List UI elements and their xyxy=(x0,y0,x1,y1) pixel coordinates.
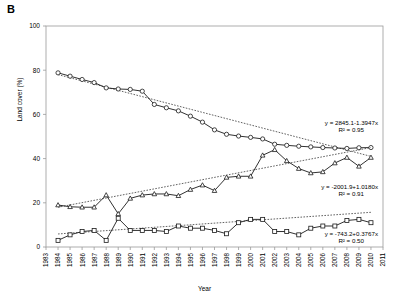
x-tick-label: 2008 xyxy=(343,253,350,268)
data-point-square xyxy=(345,218,349,222)
equation-lower-series: y = -743.2+0.3767xR² = 0.50 xyxy=(325,230,379,244)
x-tick-label: 1991 xyxy=(139,253,146,268)
data-point-square xyxy=(80,230,84,234)
x-tick-label: 1987 xyxy=(91,253,98,268)
y-tick-group: 020406080100 xyxy=(29,22,46,250)
x-tick-label: 1990 xyxy=(127,253,134,268)
data-point-circle xyxy=(224,132,228,136)
x-tick-label: 1999 xyxy=(235,253,242,268)
x-tick-label: 1984 xyxy=(54,253,61,268)
r-squared-text: R² = 0.91 xyxy=(338,190,364,197)
data-point-square xyxy=(188,226,192,230)
data-point-circle xyxy=(273,142,277,146)
data-point-circle xyxy=(261,137,265,141)
data-point-square xyxy=(152,228,156,232)
data-point-square xyxy=(213,228,217,232)
data-point-square xyxy=(104,238,108,242)
data-point-circle xyxy=(128,87,132,91)
chart-canvas: 020406080100 198319841985198619871988198… xyxy=(0,0,409,295)
data-point-square xyxy=(116,216,120,220)
trendline xyxy=(58,148,371,208)
data-point-square xyxy=(200,226,204,230)
data-point-circle xyxy=(68,74,72,78)
data-point-circle xyxy=(80,77,84,81)
data-point-square xyxy=(237,221,241,225)
data-point-circle xyxy=(200,120,204,124)
r-squared-text: R² = 0.50 xyxy=(338,237,364,244)
data-point-circle xyxy=(116,87,120,91)
data-point-circle xyxy=(56,71,60,75)
data-point-triangle xyxy=(56,203,61,207)
data-point-circle xyxy=(152,102,156,106)
series-3 xyxy=(56,212,373,242)
data-point-square xyxy=(297,233,301,237)
data-point-square xyxy=(92,228,96,232)
x-tick-label: 2002 xyxy=(271,253,278,268)
x-tick-label: 1996 xyxy=(199,253,206,268)
y-tick-label: 60 xyxy=(33,111,41,118)
y-tick-label: 80 xyxy=(33,67,41,74)
data-point-square xyxy=(56,238,60,242)
figure-panel-b: B Land cover (%) Year 020406080100 19831… xyxy=(0,0,409,295)
series-group xyxy=(56,71,374,243)
equation-text: y = -2001.9+1.0180x xyxy=(321,183,379,190)
data-point-square xyxy=(68,233,72,237)
equation-upper-series: y = 2845.1-1.3947xR² = 0.95 xyxy=(325,119,379,133)
data-point-circle xyxy=(369,145,373,149)
x-tick-label: 1994 xyxy=(175,253,182,268)
data-point-square xyxy=(357,217,361,221)
x-tick-label: 2000 xyxy=(247,253,254,268)
data-point-triangle xyxy=(296,166,301,170)
x-tick-label: 1989 xyxy=(115,253,122,268)
series-line xyxy=(58,73,371,149)
x-tick-label: 2003 xyxy=(283,253,290,268)
x-tick-label: 1998 xyxy=(223,253,230,268)
data-point-circle xyxy=(236,134,240,138)
data-point-square xyxy=(225,232,229,236)
x-tick-label: 1993 xyxy=(163,253,170,268)
data-point-circle xyxy=(297,144,301,148)
equation-text: y = -743.2+0.3767x xyxy=(325,230,379,237)
data-point-square xyxy=(369,221,373,225)
y-tick-label: 20 xyxy=(33,199,41,206)
x-tick-label: 1983 xyxy=(42,253,49,268)
data-point-square xyxy=(249,217,253,221)
x-tick-label: 2010 xyxy=(367,253,374,268)
data-point-circle xyxy=(321,145,325,149)
data-point-square xyxy=(285,230,289,234)
y-tick-label: 0 xyxy=(36,243,40,250)
x-tick-label: 1995 xyxy=(187,253,194,268)
x-tick-label: 2004 xyxy=(295,253,302,268)
data-point-triangle xyxy=(345,155,350,159)
data-point-square xyxy=(140,228,144,232)
data-point-circle xyxy=(104,86,108,90)
x-tick-label: 1985 xyxy=(66,253,73,268)
data-point-circle xyxy=(345,146,349,150)
data-point-circle xyxy=(140,89,144,93)
data-point-square xyxy=(309,226,313,230)
x-tick-label: 2005 xyxy=(307,253,314,268)
data-point-triangle xyxy=(104,193,109,197)
x-tick-label: 1997 xyxy=(211,253,218,268)
r-squared-text: R² = 0.95 xyxy=(338,126,364,133)
x-tick-label: 2009 xyxy=(355,253,362,268)
equation-text: y = 2845.1-1.3947x xyxy=(325,119,379,126)
y-tick-label: 100 xyxy=(29,22,40,29)
x-tick-label: 2006 xyxy=(319,253,326,268)
data-point-circle xyxy=(212,128,216,132)
data-point-square xyxy=(128,228,132,232)
x-tick-label: 2007 xyxy=(331,253,338,268)
series-1 xyxy=(56,71,373,157)
x-tick-group: 1983198419851986198719881989199019911992… xyxy=(42,247,386,267)
y-tick-label: 40 xyxy=(33,155,41,162)
x-tick-label: 1986 xyxy=(79,253,86,268)
x-tick-label: 1992 xyxy=(151,253,158,268)
equation-middle-series: y = -2001.9+1.0180xR² = 0.91 xyxy=(321,183,379,197)
data-point-square xyxy=(333,224,337,228)
plot-frame xyxy=(46,26,383,247)
data-point-circle xyxy=(285,143,289,147)
data-point-circle xyxy=(357,146,361,150)
data-point-square xyxy=(321,224,325,228)
data-point-circle xyxy=(333,146,337,150)
data-point-circle xyxy=(92,80,96,84)
